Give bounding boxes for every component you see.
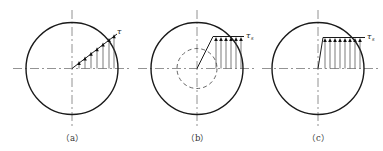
panel-a: τ （a） (13, 10, 131, 143)
yield-stress-subscript: s (372, 36, 375, 42)
yield-stress-subscript: s (251, 35, 254, 41)
elastic-plastic-stress-profile (197, 37, 244, 69)
panel-caption: （c） (307, 133, 330, 143)
panel-b: τ s （b） (138, 10, 256, 143)
stress-arrows (214, 37, 243, 69)
panel-c: τ s （c） (262, 10, 378, 143)
panel-caption: （b） (186, 133, 209, 143)
panel-caption: （a） (61, 133, 84, 143)
torsion-stress-distribution-figure: τ （a） τ s （b） (0, 0, 383, 151)
shear-stress-label: τ (117, 27, 122, 36)
